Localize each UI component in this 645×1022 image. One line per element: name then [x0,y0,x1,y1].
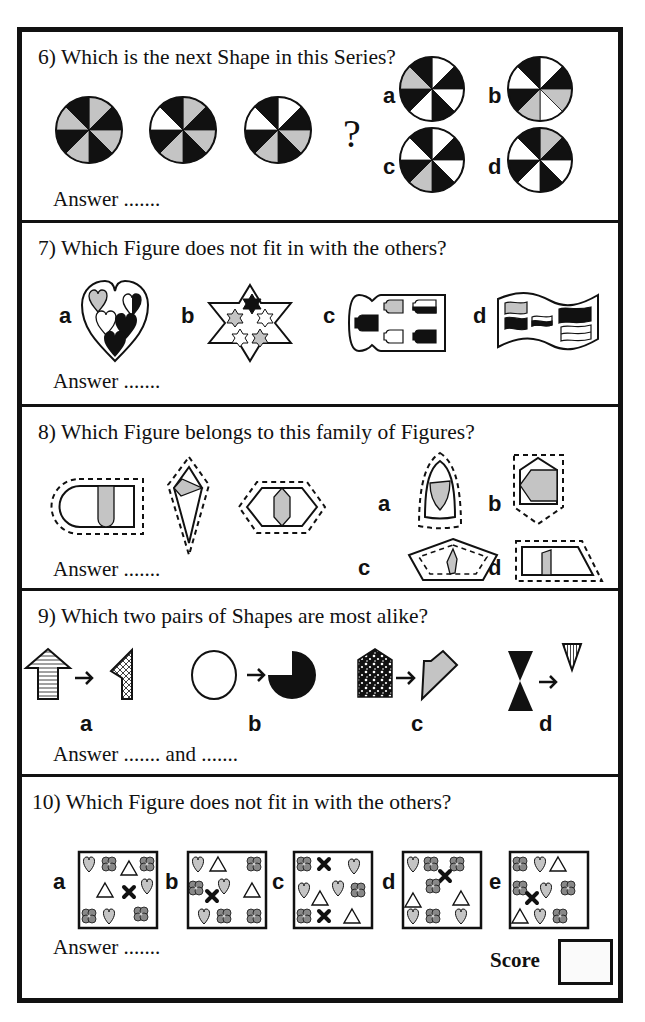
question-8-prompt: 8) Which Figure belongs to this family o… [38,420,475,445]
option-d-trapezoid-figure[interactable] [514,539,604,584]
option-b-label[interactable]: b [488,83,501,109]
question-6: 6) Which is the next Shape in this Serie… [22,32,618,223]
star-of-stars-figure[interactable] [205,283,295,363]
series-circles [22,32,618,223]
pair-a-figure[interactable] [24,646,144,711]
keyhole-figure[interactable] [347,293,447,353]
option-d-label[interactable]: d [473,303,486,329]
option-b-grid[interactable] [188,852,266,928]
option-b-label[interactable]: b [248,711,261,737]
family-hexagon-figure [237,480,327,535]
question-8: 8) Which Figure belongs to this family o… [22,407,618,591]
question-9-answer-line[interactable]: Answer ....... and ....... [53,742,238,767]
series-circle-1[interactable] [56,97,122,163]
option-c-label[interactable]: c [411,711,423,737]
question-9: 9) Which two pairs of Shapes are most al… [22,591,618,777]
family-rounded-rect-figure [52,477,147,537]
option-d-circle[interactable] [508,128,572,192]
option-a-arch-figure[interactable] [415,451,465,531]
option-c-label[interactable]: c [358,555,370,581]
series-circle-3[interactable] [245,97,311,163]
pair-c-figure[interactable] [356,646,476,711]
series-circle-2[interactable] [150,97,216,163]
option-c-circle[interactable] [400,128,464,192]
option-c-label[interactable]: c [383,154,395,180]
question-10: 10) Which Figure does not fit in with th… [22,777,618,998]
option-b-circle[interactable] [508,57,572,121]
option-c-label[interactable]: c [323,303,335,329]
option-d-label[interactable]: d [488,154,501,180]
score-box[interactable] [558,939,613,985]
question-8-answer-line[interactable]: Answer ....... [53,557,160,582]
option-a-label[interactable]: a [383,83,395,109]
option-c-grid[interactable] [294,852,372,928]
heart-of-hearts-figure[interactable] [80,279,150,364]
option-b-label[interactable]: b [181,303,194,329]
worksheet-frame: 6) Which is the next Shape in this Serie… [17,27,623,1003]
option-a-label[interactable]: a [59,303,71,329]
option-a-circle[interactable] [400,57,464,121]
option-d-label[interactable]: d [539,711,552,737]
question-7-prompt: 7) Which Figure does not fit in with the… [38,236,447,261]
option-b-house-figure[interactable] [511,452,566,527]
question-7: 7) Which Figure does not fit in with the… [22,223,618,407]
option-c-pentagon-figure[interactable] [407,537,499,582]
family-kite-figure [164,455,214,560]
option-e-grid[interactable] [510,852,588,928]
option-a-grid[interactable] [79,852,157,928]
question-9-prompt: 9) Which two pairs of Shapes are most al… [38,604,428,629]
pair-d-figure[interactable] [506,641,596,716]
option-a-label[interactable]: a [378,491,390,517]
option-a-label[interactable]: a [80,711,92,737]
option-d-grid[interactable] [403,852,481,928]
question-7-answer-line[interactable]: Answer ....... [53,369,160,394]
option-b-label[interactable]: b [488,491,501,517]
pair-b-figure[interactable] [190,646,320,711]
flag-of-flags-figure[interactable] [496,291,601,353]
score-label: Score [490,948,540,973]
